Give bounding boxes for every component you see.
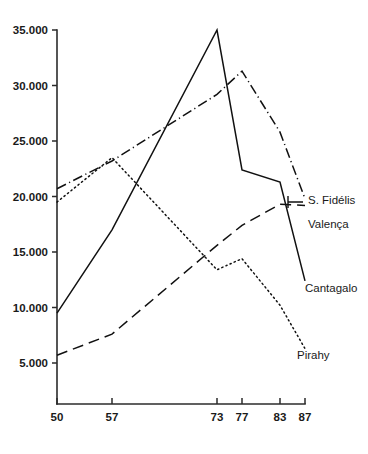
series-labels: S. Fidélis Valença Cantagalo Pirahy	[0, 0, 368, 454]
series-label-cantagalo: Cantagalo	[305, 282, 357, 294]
line-chart: 5.00010.00015.00020.00025.00030.00035.00…	[0, 0, 368, 454]
series-label-pirahy: Pirahy	[297, 349, 330, 361]
series-label-s-fidelis: S. Fidélis	[308, 194, 356, 206]
series-label-valenca: Valença	[308, 218, 349, 230]
